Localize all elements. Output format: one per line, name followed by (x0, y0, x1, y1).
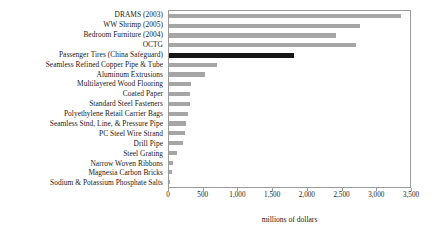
category-label: Bedroom Furniture (2004) (0, 30, 166, 40)
plot-area (168, 10, 411, 188)
category-label: Multilayered Wood Flooring (0, 79, 166, 89)
bar-row (169, 177, 410, 187)
bar (169, 43, 356, 47)
category-label: WW Shrimp (2005) (0, 20, 166, 30)
category-label: Seamless Refined Copper Pipe & Tube (0, 59, 166, 69)
category-label: Narrow Woven Ribbons (0, 158, 166, 168)
category-label: Magnesia Carbon Bricks (0, 168, 166, 178)
bar (169, 14, 401, 18)
x-axis: 05001,0001,5002,0002,5003,0003,500 (168, 188, 411, 202)
category-label: Steel Grating (0, 148, 166, 158)
bar (169, 112, 188, 116)
category-label: Polyethylene Retail Carrier Bags (0, 109, 166, 119)
x-axis-tick-label: 1,000 (229, 192, 245, 199)
bar-row (169, 11, 410, 21)
bar-chart: DRAMS (2003)WW Shrimp (2005)Bedroom Furn… (0, 0, 441, 239)
x-axis-tick-label: 3,500 (403, 192, 419, 199)
category-label: PC Steel Wire Strand (0, 129, 166, 139)
category-label: Seamless Stnd, Line, & Pressure Pipe (0, 119, 166, 129)
bar-row (169, 168, 410, 178)
category-axis-labels: DRAMS (2003)WW Shrimp (2005)Bedroom Furn… (0, 10, 166, 188)
bar-row (169, 89, 410, 99)
bar (169, 161, 173, 165)
bar (169, 102, 190, 106)
bar-row (169, 119, 410, 129)
bar (169, 63, 217, 67)
bar-row (169, 138, 410, 148)
bar-row (169, 79, 410, 89)
category-label: OCTG (0, 40, 166, 50)
category-label: Standard Steel Fasteners (0, 99, 166, 109)
bar (169, 82, 191, 86)
bar-row (169, 109, 410, 119)
bar (169, 121, 186, 125)
bar-row (169, 21, 410, 31)
category-label: Drill Pipe (0, 139, 166, 149)
bar (169, 141, 183, 145)
x-axis-tick-label: 0 (166, 192, 170, 199)
bar-row (169, 50, 410, 60)
x-axis-tick-label: 2,500 (333, 192, 349, 199)
category-label: DRAMS (2003) (0, 10, 166, 20)
category-label: Coated Paper (0, 89, 166, 99)
bar-row (169, 99, 410, 109)
bar (169, 33, 336, 37)
bar-row (169, 40, 410, 50)
bar-row (169, 158, 410, 168)
bar (169, 180, 170, 184)
x-axis-title: millions of dollars (168, 216, 411, 224)
x-axis-tick-label: 1,500 (264, 192, 280, 199)
bar-row (169, 31, 410, 41)
bar (169, 170, 172, 174)
bar (169, 72, 205, 76)
bar (169, 131, 185, 135)
bar-row (169, 70, 410, 80)
bar-row (169, 148, 410, 158)
category-label: Sodium & Potassium Phosphate Salts (0, 178, 166, 188)
bars-container (169, 11, 410, 187)
bar (169, 151, 177, 155)
bar-row (169, 128, 410, 138)
x-axis-tick-label: 3,000 (368, 192, 384, 199)
x-axis-tick-label: 500 (197, 192, 208, 199)
bar (169, 53, 294, 58)
bar-row (169, 60, 410, 70)
bar (169, 92, 190, 96)
x-axis-tick-label: 2,000 (299, 192, 315, 199)
bar (169, 24, 360, 28)
category-label: Passenger Tires (China Safeguard) (0, 50, 166, 60)
category-label: Aluminum Extrusions (0, 69, 166, 79)
